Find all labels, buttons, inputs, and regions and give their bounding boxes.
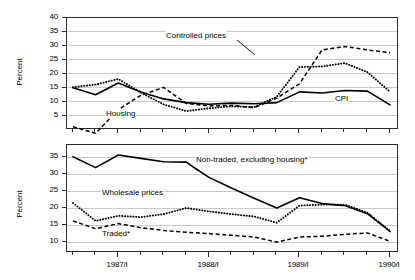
bottom-chart-xtick xyxy=(321,252,322,255)
top-chart-xtick xyxy=(72,129,73,132)
bottom-chart-xtick xyxy=(366,252,367,255)
top-chart-ytick-40: 40 xyxy=(38,13,58,21)
bottom-chart-ytick-20: 20 xyxy=(38,203,58,211)
label-cpi: CPI xyxy=(334,94,349,103)
bottom-chart-xtick xyxy=(275,252,276,255)
top-chart-xtick xyxy=(275,129,276,132)
top-chart-xtick xyxy=(208,129,209,133)
bottom-chart-xtick xyxy=(298,252,299,257)
xtick-label-1987: 1987/I xyxy=(92,261,142,269)
bottom-chart-xtick xyxy=(117,252,118,257)
top-chart-y-axis-title: Percent xyxy=(16,52,24,92)
bottom-chart-xtick xyxy=(94,252,95,255)
bottom-chart-ytick-30: 30 xyxy=(38,169,58,177)
bottom-chart-ytick-10: 10 xyxy=(38,237,58,245)
bottom-chart-y-axis-title: Percent xyxy=(16,184,24,224)
top-chart-ytick-15: 15 xyxy=(38,83,58,91)
bottom-chart-plot-area: Non-traded, excluding housing* Wholesale… xyxy=(66,144,398,252)
top-chart-ytick-5: 5 xyxy=(38,111,58,119)
controlled-prices-leader-line xyxy=(237,40,255,55)
bottom-chart-ytick-35: 35 xyxy=(38,152,58,160)
top-chart-ytick-30: 30 xyxy=(38,41,58,49)
bottom-chart-xtick xyxy=(253,252,254,255)
top-chart-ytick-35: 35 xyxy=(38,27,58,35)
label-controlled-prices: Controlled prices xyxy=(165,31,227,40)
top-chart-plot-area: Controlled prices CPI Housing xyxy=(66,17,398,129)
top-chart-xtick xyxy=(343,129,344,132)
top-chart-xtick xyxy=(253,129,254,132)
label-traded: Traded* xyxy=(101,229,131,238)
bottom-chart-xtick xyxy=(389,252,390,257)
xtick-label-1988: 1988/I xyxy=(183,261,233,269)
label-non-traded: Non-traded, excluding housing* xyxy=(195,155,309,164)
bottom-chart-ytick-15: 15 xyxy=(38,220,58,228)
bottom-chart-ytick-25: 25 xyxy=(38,186,58,194)
top-chart-ytick-20: 20 xyxy=(38,69,58,77)
label-wholesale-prices: Wholesale prices xyxy=(101,188,164,197)
series-wholesale-prices-line xyxy=(73,203,390,231)
top-chart-xtick xyxy=(185,129,186,132)
top-chart-xtick xyxy=(230,129,231,132)
label-housing: Housing xyxy=(105,109,136,118)
top-chart-ytick-10: 10 xyxy=(38,97,58,105)
xtick-label-1989: 1989/I xyxy=(273,261,323,269)
xtick-label-1990: 1990/I xyxy=(364,261,414,269)
top-chart-xtick xyxy=(389,129,390,133)
bottom-chart-xtick xyxy=(162,252,163,255)
bottom-chart-xtick xyxy=(185,252,186,255)
top-chart-xtick xyxy=(140,129,141,132)
top-chart-xtick xyxy=(162,129,163,132)
series-housing-line xyxy=(73,47,390,134)
top-chart-xtick xyxy=(117,129,118,133)
bottom-chart-xtick xyxy=(230,252,231,255)
top-chart-panel: Percent 40 35 30 25 20 15 10 5 xyxy=(0,0,415,140)
top-chart-xtick xyxy=(321,129,322,132)
bottom-chart-panel: Percent 35 30 25 20 15 10 xyxy=(0,144,415,280)
top-chart-xtick xyxy=(298,129,299,133)
top-chart-xtick xyxy=(366,129,367,132)
bottom-chart-xtick xyxy=(72,252,73,255)
bottom-chart-xtick xyxy=(140,252,141,255)
bottom-chart-xtick xyxy=(208,252,209,257)
bottom-chart-xtick xyxy=(343,252,344,255)
figure-root: Percent 40 35 30 25 20 15 10 5 xyxy=(0,0,415,280)
top-chart-ytick-25: 25 xyxy=(38,55,58,63)
top-chart-xtick xyxy=(94,129,95,132)
